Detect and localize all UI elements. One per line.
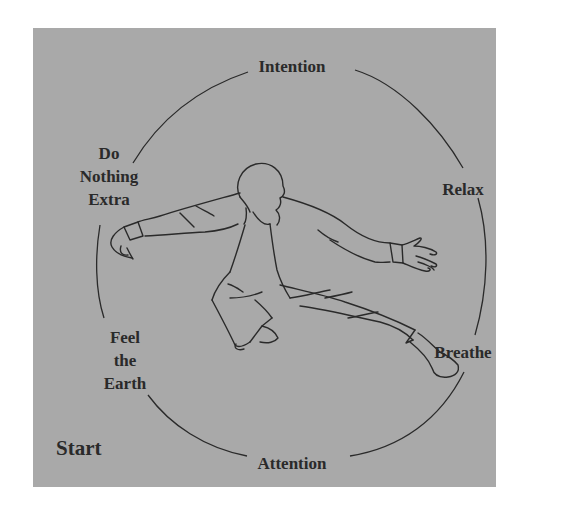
label-breathe: Breathe [423,341,503,364]
label-feel-line-3: Earth [90,372,160,395]
label-do-line-3: Extra [64,188,154,211]
label-feel-the-earth: Feel the Earth [90,326,160,395]
figure-drawing [111,163,459,377]
label-relax: Relax [438,178,488,201]
label-do-line-1: Do [64,142,154,165]
label-attention: Attention [236,452,348,475]
label-feel-line-2: the [90,349,160,372]
label-do-line-2: Nothing [64,165,154,188]
label-feel-line-1: Feel [90,326,160,349]
label-start: Start [56,437,102,460]
label-intention: Intention [236,55,348,78]
label-do-nothing-extra: Do Nothing Extra [64,142,154,211]
cycle-circle [97,70,486,456]
